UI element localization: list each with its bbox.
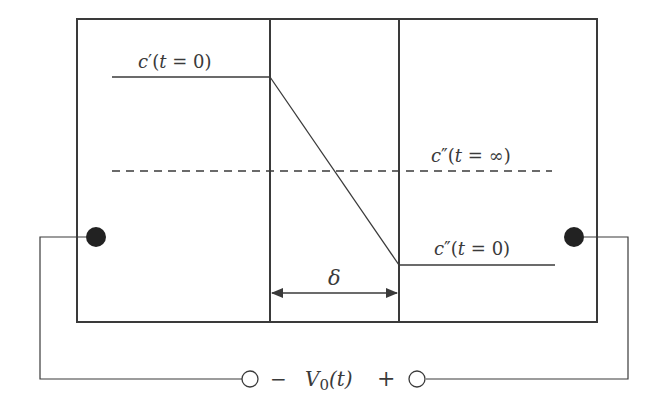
left-circuit-wire [40, 237, 242, 379]
label-plus-sign: + [377, 366, 395, 391]
negative-terminal-icon [242, 371, 258, 387]
label-minus-sign: − [270, 367, 287, 391]
label-voltage: V0(t) [305, 367, 353, 394]
membrane-cell-diagram: c′(t = 0) c″(t = ∞) c″(t = 0) δ − V0(t) … [0, 0, 659, 410]
label-c-right-t0: c″(t = 0) [434, 238, 510, 259]
label-c-right-tinf: c″(t = ∞) [431, 145, 511, 166]
left-electrode-icon [86, 227, 106, 247]
label-c-left-t0: c′(t = 0) [138, 51, 211, 72]
positive-terminal-icon [409, 371, 425, 387]
label-delta: δ [328, 266, 341, 290]
right-electrode-icon [564, 227, 584, 247]
